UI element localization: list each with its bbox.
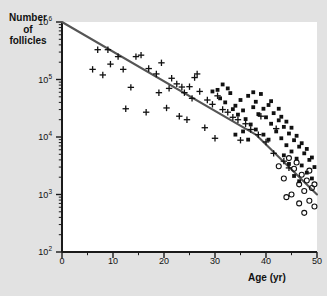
x-axis-tick-label: 10 bbox=[103, 256, 123, 266]
y-axis-tick-label: 106 bbox=[26, 15, 52, 27]
data-point-square bbox=[254, 100, 258, 104]
data-point-square bbox=[282, 125, 286, 129]
x-axis-tick-label: 30 bbox=[205, 256, 225, 266]
data-point-square bbox=[277, 118, 281, 122]
data-point-square bbox=[211, 90, 215, 94]
y-axis-tick-label: 105 bbox=[26, 73, 52, 85]
data-point-square bbox=[249, 123, 253, 127]
data-point-square bbox=[234, 133, 238, 137]
data-point-square bbox=[292, 138, 296, 142]
data-point-square bbox=[300, 141, 304, 145]
data-point-square bbox=[290, 126, 294, 130]
y-axis-tick-label: 102 bbox=[26, 245, 52, 257]
data-point-square bbox=[310, 156, 314, 160]
data-point-square bbox=[244, 117, 248, 121]
data-point-square bbox=[290, 150, 294, 154]
data-point-square bbox=[267, 138, 271, 142]
x-axis-tick-label: 40 bbox=[256, 256, 276, 266]
data-point-square bbox=[285, 120, 289, 124]
data-point-square bbox=[259, 92, 263, 96]
data-point-square bbox=[313, 165, 317, 169]
follicle-age-scatter-figure: Number of follicles Age (yr) 10610510410… bbox=[0, 0, 327, 296]
data-point-square bbox=[300, 164, 304, 168]
data-point-square bbox=[285, 143, 289, 147]
y-axis-tick-label: 104 bbox=[26, 130, 52, 142]
data-point-square bbox=[241, 130, 245, 134]
data-point-square bbox=[305, 147, 309, 151]
data-point-square bbox=[216, 88, 220, 92]
data-point-square bbox=[274, 130, 278, 134]
data-point-square bbox=[256, 112, 260, 116]
data-point-square bbox=[262, 107, 266, 111]
data-point-square bbox=[269, 122, 273, 126]
data-point-square bbox=[264, 115, 268, 119]
data-point-square bbox=[310, 177, 314, 181]
data-point-square bbox=[226, 87, 230, 91]
data-point-square bbox=[251, 105, 255, 109]
data-point-square bbox=[297, 145, 301, 149]
data-point-square bbox=[228, 91, 232, 95]
data-point-square bbox=[251, 90, 255, 94]
y-axis-tick-label: 103 bbox=[26, 188, 52, 200]
data-point-square bbox=[302, 151, 306, 155]
data-point-square bbox=[295, 134, 299, 138]
data-point-square bbox=[246, 138, 250, 142]
data-point-square bbox=[272, 111, 276, 115]
data-point-square bbox=[277, 107, 281, 111]
data-point-square bbox=[241, 109, 245, 113]
plot-area-background bbox=[62, 22, 317, 252]
data-point-square bbox=[223, 100, 227, 104]
data-point-square bbox=[262, 133, 266, 137]
data-point-square bbox=[231, 107, 235, 111]
data-point-square bbox=[269, 99, 273, 103]
data-point-square bbox=[292, 174, 296, 178]
data-point-square bbox=[221, 83, 225, 87]
data-point-square bbox=[282, 153, 286, 157]
data-point-square bbox=[239, 98, 243, 102]
data-point-square bbox=[279, 136, 283, 140]
data-point-square bbox=[236, 113, 240, 117]
x-axis-tick-label: 0 bbox=[52, 256, 72, 266]
data-point-square bbox=[218, 96, 222, 100]
data-point-square bbox=[234, 104, 238, 108]
x-axis-tick-label: 50 bbox=[307, 256, 327, 266]
data-point-square bbox=[246, 94, 250, 98]
data-point-square bbox=[267, 103, 271, 107]
data-point-square bbox=[279, 115, 283, 119]
data-point-square bbox=[287, 162, 291, 166]
x-axis-tick-label: 20 bbox=[154, 256, 174, 266]
data-point-square bbox=[287, 132, 291, 136]
data-point-square bbox=[254, 128, 258, 132]
